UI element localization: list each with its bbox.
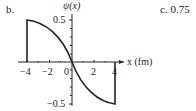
x-tick-label: 0 — [64, 66, 69, 77]
x-tick-label: −4 — [20, 66, 31, 77]
y-axis-title: ψ(x) — [63, 0, 81, 12]
y-tick-label: −0.5 — [47, 98, 65, 109]
wavefunction-chart: −4 −2 0 2 4 0.5 −0.5 ψ(x) x (fm) — [0, 0, 196, 111]
x-tick-label: −2 — [42, 66, 53, 77]
x-axis-arrow-icon — [119, 60, 124, 64]
x-tick-label: 2 — [91, 66, 96, 77]
x-tick-label: 4 — [112, 66, 117, 77]
x-axis-title: x (fm) — [127, 56, 152, 68]
y-tick-label: 0.5 — [53, 14, 66, 25]
